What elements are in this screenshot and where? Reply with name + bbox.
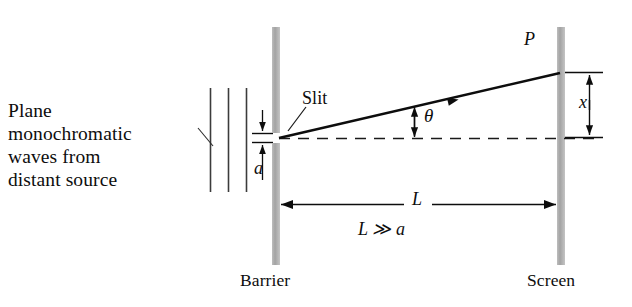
slit-label: Slit	[302, 88, 327, 109]
screen-label: Screen	[527, 270, 575, 291]
slit-leader-line	[288, 107, 306, 131]
point-p-label: P	[524, 29, 535, 50]
plane-wavefront-lines	[211, 88, 247, 192]
displacement-x-label: x	[579, 92, 587, 113]
screen-bar	[557, 27, 565, 265]
diagram-canvas: Plane monochromatic waves from distant s…	[0, 0, 632, 307]
barrier-label: Barrier	[240, 270, 290, 291]
source-label: Plane monochromatic waves from distant s…	[8, 99, 132, 191]
barrier-bar	[272, 27, 280, 265]
angle-theta-label: θ	[424, 105, 433, 127]
distance-l-label: L	[407, 189, 427, 210]
condition-label: L ≫ a	[358, 219, 405, 240]
slit-width-label: a	[254, 158, 263, 179]
